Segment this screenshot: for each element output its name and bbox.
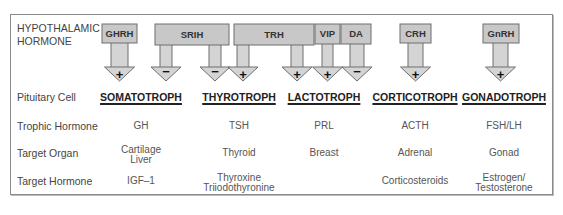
crh-arrow: CRH + [400, 24, 431, 82]
hormone-label-srih: SRIH [181, 29, 204, 40]
target-organ-thyrotroph: Thyroid [222, 148, 255, 158]
target-organ-gonadotroph: Gonad [489, 148, 519, 158]
ghrh-arrow: GHRH + [102, 24, 137, 82]
plus-sign-icon: + [293, 67, 301, 82]
pituitary-cell-gonadotroph: GONADOTROPH [462, 91, 546, 103]
trophic-hormone-fsh-lh: FSH/LH [486, 121, 522, 131]
minus-sign-icon: − [211, 64, 219, 79]
hormone-label-trh: TRH [264, 29, 284, 40]
hormone-label-da: DA [349, 28, 363, 39]
target-organ-somatotroph: Cartilage Liver [121, 145, 161, 165]
hormone-label-vip: VIP [320, 28, 336, 39]
target-hormone-line: Testosterone [475, 183, 532, 193]
target-organ-corticotroph: Adrenal [398, 148, 432, 158]
target-hormone-line: Triiodothyronine [203, 183, 274, 193]
pituitary-cell-thyrotroph: THYROTROPH [202, 91, 276, 103]
minus-sign-icon: − [353, 64, 361, 79]
plus-sign-icon: + [116, 67, 124, 82]
plus-sign-icon: + [497, 67, 505, 82]
vip-arrow: VIP + [313, 24, 343, 82]
hormone-label-ghrh: GHRH [106, 28, 134, 39]
pituitary-cell-somatotroph: SOMATOTROPH [100, 91, 182, 103]
target-hormone-gonadotroph: Estrogen/ Testosterone [475, 173, 532, 193]
plus-sign-icon: + [239, 67, 247, 82]
plus-sign-icon: + [412, 67, 420, 82]
hormone-label-crh: CRH [405, 28, 426, 39]
trophic-hormone-acth: ACTH [401, 121, 428, 131]
target-organ-lactotroph: Breast [310, 148, 339, 158]
trophic-hormone-tsh: TSH [229, 121, 249, 131]
trophic-hormone-prl: PRL [314, 121, 333, 131]
target-hormone-corticosteroids: Corticosteroids [382, 176, 449, 186]
hormone-label-gnrh: GnRH [488, 28, 515, 39]
da-arrow: DA − [341, 24, 372, 81]
target-organ-line: Liver [121, 155, 161, 165]
srih-arrow: SRIH − − [151, 24, 230, 81]
trophic-hormone-gh: GH [134, 121, 149, 131]
trh-arrow: TRH + + [228, 24, 314, 82]
target-hormone-thyrotroph: Thyroxine Triiodothyronine [203, 173, 274, 193]
minus-sign-icon: − [162, 64, 170, 79]
pituitary-cell-lactotroph: LACTOTROPH [288, 91, 361, 103]
plus-sign-icon: + [324, 67, 332, 82]
pituitary-cell-corticotroph: CORTICOTROPH [372, 91, 457, 103]
target-hormone-igf1: IGF–1 [127, 176, 155, 186]
gnrh-arrow: GnRH + [483, 24, 519, 82]
